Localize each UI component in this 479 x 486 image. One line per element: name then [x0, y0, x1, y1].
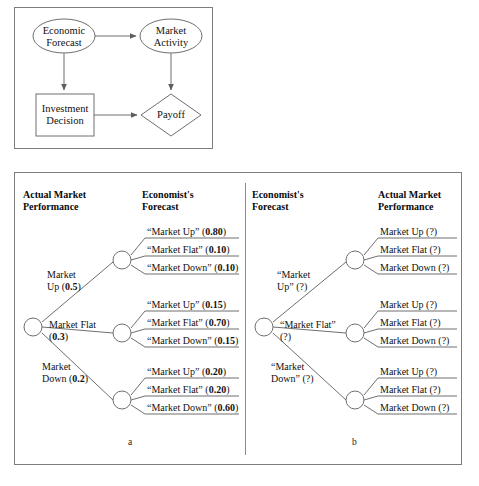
- tree-a-leaf-label-up-2-text: “Market Flat” (: [147, 244, 209, 255]
- tree-a-header-1-line2: Performance: [23, 201, 86, 213]
- tree-b-header-actual-market-performance: Actual Market Performance: [378, 189, 441, 212]
- tree-b-header-1-line1: Economist's: [252, 189, 304, 201]
- tree-a-leaf-label-flat-3-text: “Market Down” (: [147, 335, 218, 346]
- tree-b-leaf-label-down-2: Market Flat (?): [380, 384, 441, 396]
- tree-a-leaf-prob-flat-2: 0.70: [209, 317, 227, 328]
- tree-b-node-down: [346, 391, 364, 409]
- tree-a-leaf-tail-down-3: ): [235, 402, 238, 413]
- tree-b-leaf-label-flat-2: Market Flat (?): [380, 317, 441, 329]
- tree-b-label-forecast-up-line2: Up” (?): [277, 281, 310, 293]
- tree-b-label-forecast-down-line2: Down” (?): [271, 373, 313, 385]
- tree-b-leaf-label-down-3: Market Down (?): [380, 402, 449, 414]
- tree-a-leaf-prob-up-3: 0.10: [218, 262, 236, 273]
- tree-a-node-up: [113, 251, 131, 269]
- tree-a-leaf-down-3: [131, 405, 145, 414]
- tree-a-leaf-prob-up-2: 0.10: [209, 244, 227, 255]
- tree-a-leaf-tail-up-2: ): [226, 244, 229, 255]
- tree-a-caption: a: [128, 437, 132, 447]
- tree-a-label-market-flat: Market Flat (0.3): [49, 319, 96, 342]
- tree-a-leaf-label-flat-2-text: “Market Flat” (: [147, 317, 209, 328]
- tree-a-leaf-label-up-1: “Market Up” (0.80): [147, 226, 226, 238]
- tree-b-root-node: [255, 318, 273, 336]
- tree-a-leaf-label-down-3: “Market Down” (0.60): [147, 402, 238, 414]
- tree-a-leaf-label-flat-3: “Market Down” (0.15): [147, 335, 238, 347]
- tree-a-leaf-label-up-1-text: “Market Up” (: [147, 226, 205, 237]
- tree-a-label-market-down-text2: Down (: [42, 373, 72, 384]
- tree-a-leaf-prob-flat-3: 0.15: [218, 335, 236, 346]
- tree-b-label-forecast-flat-line2: (?): [280, 331, 336, 343]
- tree-b-header-economists-forecast: Economist's Forecast: [252, 189, 304, 212]
- tree-a-root-node: [24, 318, 42, 336]
- tree-a-node-down: [113, 391, 131, 409]
- tree-b-leaf-label-up-3: Market Down (?): [380, 262, 449, 274]
- tree-a-leaf-down-2: [131, 396, 145, 400]
- tree-a-leaf-up-2: [131, 256, 145, 260]
- tree-a-label-market-up-tail: ): [78, 281, 81, 292]
- tree-a-header-economists-forecast: Economist's Forecast: [142, 189, 194, 212]
- tree-a-leaf-tail-flat-2: ): [226, 317, 229, 328]
- tree-a-leaf-tail-up-3: ): [235, 262, 238, 273]
- tree-a-header-2-line1: Economist's: [142, 189, 194, 201]
- tree-a-leaf-tail-flat-1: ): [223, 299, 226, 310]
- tree-a-leaf-label-up-3-text: “Market Down” (: [147, 262, 218, 273]
- tree-b-label-forecast-flat: “Market Flat” (?): [280, 319, 336, 342]
- tree-b-leaf-down-3: [364, 405, 378, 414]
- tree-a-leaf-prob-up-1: 0.80: [205, 226, 223, 237]
- tree-a-leaf-label-down-2: “Market Flat” (0.20): [147, 384, 229, 396]
- tree-a-leaf-prob-flat-1: 0.15: [205, 299, 223, 310]
- tree-b-leaf-down-1: [364, 378, 378, 395]
- tree-a-prob-market-up: 0.5: [65, 281, 78, 292]
- tree-a-node-flat: [113, 324, 131, 342]
- tree-b-leaf-label-up-2: Market Flat (?): [380, 244, 441, 256]
- tree-b-label-forecast-flat-line1: “Market Flat”: [280, 319, 336, 330]
- tree-a-label-market-flat-line1: Market Flat: [49, 319, 96, 330]
- tree-a-prob-market-flat: 0.3: [52, 331, 65, 342]
- tree-b-leaf-label-down-1: Market Up (?): [380, 366, 437, 378]
- tree-a-header-1-line1: Actual Market: [23, 189, 86, 201]
- tree-a-leaf-label-down-1: “Market Up” (0.20): [147, 366, 226, 378]
- tree-b-label-forecast-up: “Market Up” (?): [277, 269, 310, 292]
- tree-a-leaf-flat-3: [131, 338, 145, 347]
- tree-b-label-forecast-down: “Market Down” (?): [271, 361, 313, 384]
- tree-b-leaf-flat-1: [364, 311, 378, 328]
- tree-a-label-market-up-line1: Market: [47, 269, 76, 280]
- tree-a-label-market-down-line2: Down (0.2): [42, 373, 88, 385]
- tree-a-leaf-label-down-3-text: “Market Down” (: [147, 402, 218, 413]
- tree-a-leaf-label-down-2-text: “Market Flat” (: [147, 384, 209, 395]
- tree-a-leaf-up-1: [131, 238, 145, 255]
- tree-a-leaf-up-3: [131, 265, 145, 274]
- tree-a-leaf-flat-1: [131, 311, 145, 328]
- tree-a-leaf-prob-down-2: 0.20: [209, 384, 227, 395]
- tree-a-leaf-label-flat-1-text: “Market Up” (: [147, 299, 205, 310]
- tree-a-leaf-label-down-1-text: “Market Up” (: [147, 366, 205, 377]
- tree-b-leaf-label-up-1: Market Up (?): [380, 226, 437, 238]
- tree-b-caption: b: [352, 437, 357, 447]
- tree-a-leaf-label-flat-1: “Market Up” (0.15): [147, 299, 226, 311]
- tree-a-label-market-flat-line2: (0.3): [49, 331, 96, 343]
- tree-a-label-market-flat-tail: ): [65, 331, 68, 342]
- tree-b-label-forecast-up-line1: “Market: [277, 269, 310, 280]
- tree-a-leaf-tail-down-2: ): [226, 384, 229, 395]
- tree-a-label-market-up-line2: Up (0.5): [47, 281, 81, 293]
- tree-a-leaf-label-up-3: “Market Down” (0.10): [147, 262, 238, 274]
- tree-a-label-market-up: Market Up (0.5): [47, 269, 81, 292]
- tree-b-leaf-flat-3: [364, 338, 378, 347]
- tree-b-leaf-up-2: [364, 256, 378, 260]
- tree-b-header-1-line2: Forecast: [252, 201, 304, 213]
- tree-b-header-2-line1: Actual Market: [378, 189, 441, 201]
- tree-a-label-market-down: Market Down (0.2): [42, 361, 88, 384]
- tree-a-leaf-flat-2: [131, 329, 145, 333]
- tree-b-leaf-label-flat-1: Market Up (?): [380, 299, 437, 311]
- tree-b-leaf-down-2: [364, 396, 378, 400]
- figure-root: Economic Forecast Market Activity Invest…: [0, 0, 479, 486]
- tree-a-leaf-tail-flat-3: ): [235, 335, 238, 346]
- tree-a-leaf-tail-down-1: ): [223, 366, 226, 377]
- tree-b-label-forecast-down-line1: “Market: [271, 361, 304, 372]
- tree-a-leaf-label-up-2: “Market Flat” (0.10): [147, 244, 229, 256]
- tree-a-leaf-prob-down-1: 0.20: [205, 366, 223, 377]
- tree-a-leaf-prob-down-3: 0.60: [218, 402, 236, 413]
- tree-b-header-2-line2: Performance: [378, 201, 441, 213]
- tree-a-label-market-up-text2: Up (: [47, 281, 65, 292]
- tree-b-node-flat: [346, 324, 364, 342]
- tree-a-label-market-down-tail: ): [85, 373, 88, 384]
